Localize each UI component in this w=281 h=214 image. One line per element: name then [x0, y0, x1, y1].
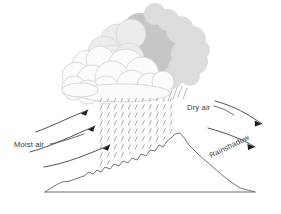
leeward-arrowheads [246, 121, 262, 152]
moist-air-leader [50, 134, 84, 144]
cloud-group [62, 3, 210, 104]
rain-hatching [90, 86, 187, 176]
label-moist-air: Moist air [14, 140, 44, 149]
label-dry-air: Dry air [187, 103, 211, 112]
rainshadow-diagram: Moist air Dry air Rainshadow [0, 0, 281, 214]
diagram-canvas: Moist air Dry air Rainshadow [0, 0, 281, 214]
label-rainshadow: Rainshadow [208, 133, 251, 160]
dry-air-leader [214, 106, 234, 115]
